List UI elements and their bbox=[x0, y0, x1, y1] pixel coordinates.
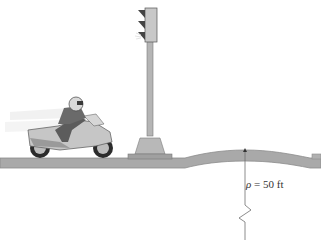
radius-indicator bbox=[239, 148, 251, 240]
radius-label: ρ = 50 ft bbox=[246, 178, 283, 190]
radius-value: 50 ft bbox=[263, 178, 283, 190]
equals-sign: = bbox=[251, 178, 263, 190]
diagram-canvas bbox=[0, 0, 321, 245]
visor bbox=[77, 101, 83, 105]
traffic-light bbox=[128, 8, 172, 159]
